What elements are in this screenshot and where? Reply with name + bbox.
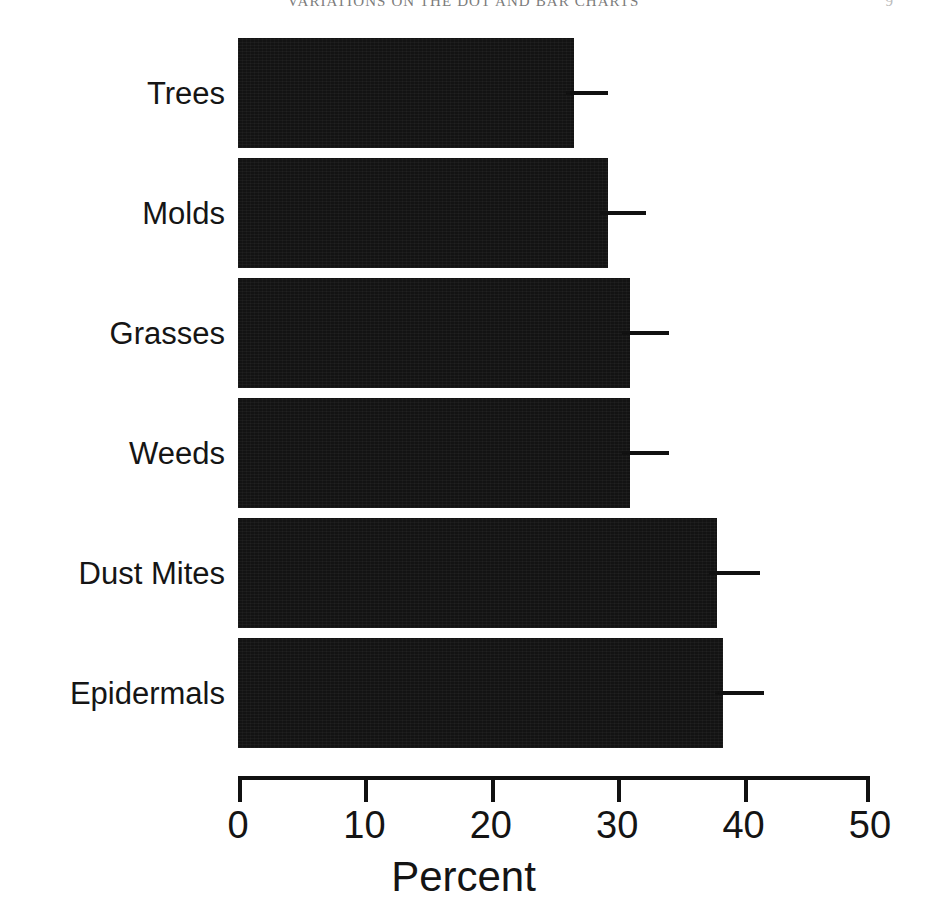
category-label: Grasses [110, 318, 225, 349]
x-axis-tick-label: 50 [849, 806, 891, 844]
x-axis-tick [238, 776, 242, 802]
x-axis-tick [617, 776, 621, 802]
bar [238, 38, 574, 148]
x-axis-tick-label: 40 [722, 806, 764, 844]
bar [238, 638, 723, 748]
error-bar [622, 451, 669, 455]
error-bar [715, 691, 763, 695]
category-label: Dust Mites [79, 558, 225, 589]
x-axis-tick-label: 20 [470, 806, 512, 844]
x-axis-line [238, 776, 870, 780]
error-bar [622, 331, 669, 335]
error-bar [600, 211, 646, 215]
error-bar [566, 91, 608, 95]
bar [238, 398, 630, 508]
bar [238, 278, 630, 388]
x-axis-tick-label: 0 [227, 806, 248, 844]
category-label: Epidermals [70, 678, 225, 709]
x-axis-tick [866, 776, 870, 802]
category-label: Trees [147, 78, 225, 109]
x-axis-tick [364, 776, 368, 802]
error-bar [709, 571, 760, 575]
bar [238, 158, 608, 268]
x-axis-tick [491, 776, 495, 802]
category-label: Molds [142, 198, 225, 229]
bar-chart-figure: TreesMoldsGrassesWeedsDust MitesEpiderma… [0, 0, 927, 915]
x-axis-tick [744, 776, 748, 802]
bar [238, 518, 717, 628]
x-axis-title: Percent [391, 856, 536, 898]
x-axis-tick-label: 30 [596, 806, 638, 844]
plot-area: TreesMoldsGrassesWeedsDust MitesEpiderma… [0, 0, 927, 915]
category-label: Weeds [129, 438, 225, 469]
x-axis-tick-label: 10 [343, 806, 385, 844]
